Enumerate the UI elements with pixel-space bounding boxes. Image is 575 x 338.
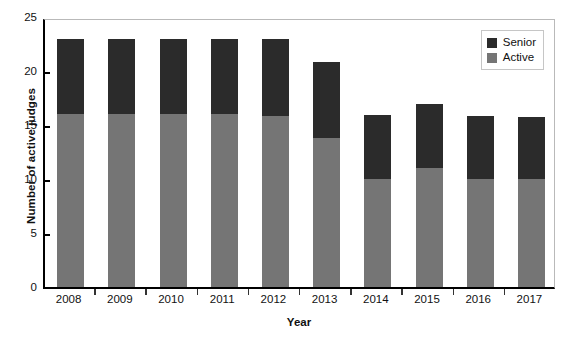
bar-segment-active-2008 (57, 114, 84, 287)
bar-2008 (57, 39, 84, 287)
y-tick-label: 10 (0, 173, 37, 185)
bar-segment-senior-2009 (108, 39, 135, 115)
bar-segment-senior-2017 (518, 117, 545, 179)
y-tick-mark (43, 180, 50, 182)
plot-area: Senior Active (43, 19, 555, 289)
bar-2013 (313, 62, 340, 287)
y-tick-mark (43, 72, 50, 74)
bar-segment-active-2014 (364, 179, 391, 287)
y-tick-label: 20 (0, 65, 37, 77)
bar-2012 (262, 39, 289, 287)
bar-2015 (416, 104, 443, 287)
legend-label-senior: Senior (503, 37, 536, 49)
bar-segment-active-2015 (416, 168, 443, 287)
x-axis-title: Year (42, 316, 556, 328)
legend-item-active: Active (487, 50, 536, 65)
bar-segment-senior-2016 (467, 116, 494, 179)
stacked-bar-chart: Number of active judges Senior Active 05… (0, 0, 575, 338)
bar-segment-senior-2013 (313, 62, 340, 138)
y-tick-mark (43, 234, 50, 236)
bar-segment-senior-2010 (160, 39, 187, 115)
y-tick-label: 5 (0, 227, 37, 239)
legend-swatch-active (487, 53, 497, 63)
bar-segment-senior-2015 (416, 104, 443, 168)
bar-segment-active-2017 (518, 179, 545, 287)
bar-segment-active-2009 (108, 114, 135, 287)
y-tick-label: 25 (0, 11, 37, 23)
bar-2011 (211, 39, 238, 287)
bar-segment-active-2012 (262, 116, 289, 287)
bar-segment-active-2011 (211, 114, 238, 287)
bar-2009 (108, 39, 135, 287)
y-tick-mark (43, 126, 50, 128)
legend-label-active: Active (503, 52, 534, 64)
bar-segment-senior-2008 (57, 39, 84, 115)
bar-2014 (364, 115, 391, 287)
chart-legend: Senior Active (481, 30, 544, 70)
legend-swatch-senior (487, 38, 497, 48)
bar-segment-active-2010 (160, 114, 187, 287)
bar-segment-active-2013 (313, 138, 340, 287)
y-tick-label: 0 (0, 281, 37, 293)
bar-2017 (518, 117, 545, 287)
bar-segment-senior-2011 (211, 39, 238, 115)
y-tick-label: 15 (0, 119, 37, 131)
bar-segment-senior-2014 (364, 115, 391, 179)
x-tick-label-2017: 2017 (499, 293, 559, 305)
bar-2016 (467, 116, 494, 287)
bar-segment-active-2016 (467, 179, 494, 287)
legend-item-senior: Senior (487, 35, 536, 50)
bar-2010 (160, 39, 187, 287)
bar-segment-senior-2012 (262, 39, 289, 117)
